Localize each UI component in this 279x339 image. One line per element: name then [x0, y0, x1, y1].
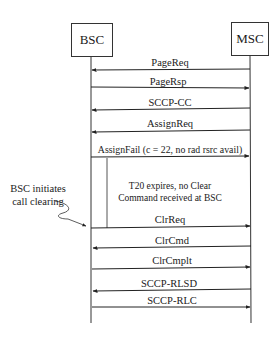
- bsc-label: BSC: [80, 32, 105, 48]
- msc-box: MSC: [231, 22, 269, 56]
- msg-label-pagereq: PageReq: [151, 58, 188, 69]
- msg-label-sccp-cc: SCCP-CC: [148, 98, 191, 109]
- msg-label-assignfail: AssignFail (c = 22, no rad rsrc avail): [98, 145, 242, 155]
- msg-label-clrcmplt: ClrCmplt: [152, 256, 192, 267]
- timer-note: T20 expires, no Clear Command received a…: [118, 180, 222, 205]
- timer-note-line1: T20 expires, no Clear: [118, 180, 222, 192]
- side-annotation: BSC initiates call clearing: [10, 183, 66, 208]
- sequence-diagram: BSC MSC PageReq PageRsp SCCP-CC AssignRe…: [0, 0, 279, 339]
- side-annotation-line2: call clearing: [10, 196, 66, 209]
- msc-label: MSC: [236, 31, 263, 47]
- arrow-clrcmplt: [92, 267, 250, 269]
- arrow-assignfail: [91, 156, 249, 157]
- bsc-box: BSC: [71, 23, 113, 57]
- msc-lifeline: [250, 56, 251, 323]
- arrow-assignreq: [92, 130, 250, 132]
- msg-label-pagersp: PageRsp: [150, 77, 187, 88]
- msg-label-sccp-rlsd: SCCP-RLSD: [141, 279, 197, 290]
- msg-label-clrcmd: ClrCmd: [155, 236, 189, 247]
- arrow-clrreq: [91, 226, 250, 228]
- arrow-pagereq: [92, 69, 250, 70]
- side-annotation-line1: BSC initiates: [10, 183, 66, 196]
- timer-note-line2: Command received at BSC: [118, 192, 222, 204]
- msg-label-clrreq: ClrReq: [155, 215, 185, 226]
- msg-label-assignreq: AssignReq: [147, 119, 193, 130]
- msg-label-sccp-rlc: SCCP-RLC: [147, 296, 197, 307]
